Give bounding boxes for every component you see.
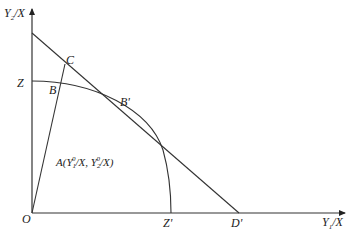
point-b-label: B <box>49 83 57 97</box>
point-a-annotation: A(Y10/X, Y20/X) <box>55 155 114 170</box>
origin-label: O <box>22 212 31 226</box>
point-z-prime-label: Z' <box>163 216 173 230</box>
x-axis-label: Y1/X <box>322 215 344 231</box>
point-d-prime-label: D' <box>230 216 243 230</box>
ppf-diagram: Y2/X Y1/X O Z Z' B B' C D' A(Y10/X, Y20/… <box>0 0 354 242</box>
point-c-label: C <box>66 53 75 67</box>
point-b-prime-label: B' <box>120 95 130 109</box>
tangent-line <box>32 33 239 213</box>
y-axis-label: Y2/X <box>4 6 26 22</box>
point-z-label: Z <box>17 76 24 90</box>
frontier-curve <box>32 81 171 213</box>
